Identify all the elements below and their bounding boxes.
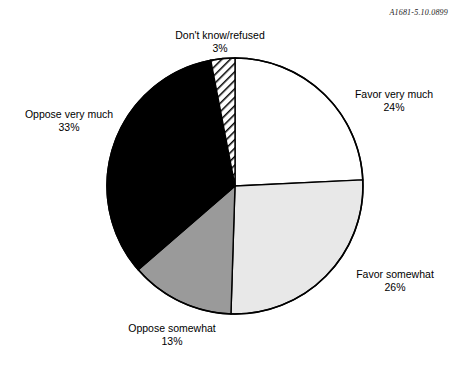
slice-label-text: Favor somewhat bbox=[339, 268, 451, 281]
slice-value-text: 33% bbox=[8, 121, 130, 134]
pie-slice bbox=[235, 58, 363, 186]
chart-page: A1681-5.10.0899 Don't know/refused 3% Fa… bbox=[0, 0, 458, 366]
slice-label-text: Don't know/refused bbox=[152, 29, 288, 42]
slice-label-text: Favor very much bbox=[339, 88, 449, 101]
slice-label-favor-somewhat: Favor somewhat 26% bbox=[339, 268, 451, 294]
slice-value-text: 26% bbox=[339, 281, 451, 294]
slice-label-text: Oppose very much bbox=[8, 108, 130, 121]
slice-label-dont-know-refused: Don't know/refused 3% bbox=[152, 29, 288, 55]
slice-label-oppose-somewhat: Oppose somewhat 13% bbox=[104, 322, 240, 348]
slice-value-text: 13% bbox=[104, 335, 240, 348]
slice-label-oppose-very-much: Oppose very much 33% bbox=[8, 108, 130, 134]
slice-value-text: 3% bbox=[152, 42, 288, 55]
slice-label-favor-very-much: Favor very much 24% bbox=[339, 88, 449, 114]
pie-slice-group bbox=[107, 58, 363, 314]
slice-value-text: 24% bbox=[339, 101, 449, 114]
slice-label-text: Oppose somewhat bbox=[104, 322, 240, 335]
